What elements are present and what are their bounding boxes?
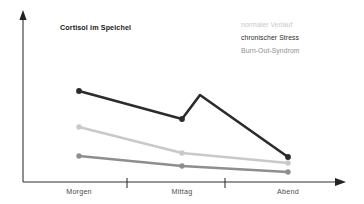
x-axis-labels: Morgen Mittag Abend (66, 187, 299, 196)
data-point-burnout-mittag (179, 163, 184, 168)
chart-title: Cortisol im Speichel (60, 23, 131, 32)
chart-canvas: Cortisol im Speichel normaler Verlauf ch… (0, 0, 364, 204)
x-axis-arrowhead (335, 178, 346, 186)
x-axis-label-mittag: Mittag (172, 187, 193, 196)
x-axis-label-morgen: Morgen (66, 187, 92, 196)
legend-item-burn-out-syndrom: Burn-Out-Syndrom (241, 47, 300, 55)
data-point-burnout-morgen (76, 153, 81, 158)
series-chronischer-stress (76, 88, 291, 160)
data-point-burnout-abend (285, 169, 290, 174)
x-axis-label-abend: Abend (277, 187, 299, 196)
data-point-normal-abend (285, 160, 290, 165)
data-point-chronic-mittag (179, 116, 185, 122)
series-burn-out-syndrom (76, 153, 290, 174)
y-axis-arrowhead (19, 10, 26, 20)
data-point-chronic-morgen (76, 88, 82, 94)
legend-item-normaler-verlauf: normaler Verlauf (241, 21, 292, 28)
data-point-normal-mittag (179, 150, 184, 155)
cortisol-line-chart: Cortisol im Speichel normaler Verlauf ch… (0, 0, 364, 204)
data-point-chronic-abend (285, 154, 291, 160)
chart-legend: normaler Verlauf chronischer Stress Burn… (241, 21, 300, 55)
series-line-normaler-verlauf (79, 127, 288, 163)
data-point-normal-morgen (76, 124, 81, 129)
series-line-chronischer-stress (79, 91, 288, 157)
legend-item-chronischer-stress: chronischer Stress (241, 34, 300, 41)
